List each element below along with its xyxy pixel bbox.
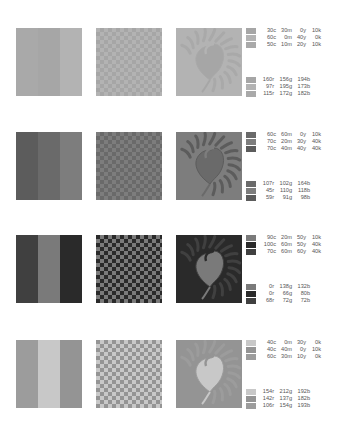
color-chip: [246, 195, 256, 201]
sun-heart-illustration: [176, 340, 242, 408]
red-value: 106r: [258, 402, 274, 409]
cyan-value: 100c: [262, 241, 276, 248]
color-chip: [246, 35, 256, 41]
cyan-value: 40c: [262, 346, 276, 353]
blue-value: 98b: [294, 194, 310, 201]
cyan-value: 70c: [262, 248, 276, 255]
green-value: 154g: [276, 402, 292, 409]
swatch-set-1: 30c30m0y10k60c0m40y0k50c10m20y10k160r156…: [0, 28, 352, 98]
magenta-value: 30m: [278, 27, 292, 34]
color-chip: [246, 242, 256, 248]
cmyk-row: 60c30m10y0k: [246, 354, 352, 360]
color-legend: 40c0m30y0k40c40m0y10k60c30m10y0k154r212g…: [246, 340, 352, 410]
green-value: 138g: [276, 283, 292, 290]
blue-value: 182b: [294, 90, 310, 97]
cyan-value: 60c: [262, 34, 276, 41]
color-chip: [246, 284, 256, 290]
rgb-row: 106r154g193b: [246, 403, 352, 409]
magenta-value: 20m: [278, 138, 292, 145]
color-chip: [246, 42, 256, 48]
yellow-value: 60y: [294, 248, 306, 255]
yellow-value: 0y: [294, 27, 306, 34]
black-value: 10k: [308, 346, 321, 353]
red-value: 107r: [258, 180, 274, 187]
yellow-value: 10y: [294, 353, 306, 360]
color-chip: [246, 291, 256, 297]
magenta-value: 60m: [278, 248, 292, 255]
color-legend: 90c20m50y10k100c60m50y40k70c60m60y40k0r1…: [246, 235, 352, 305]
magenta-value: 10m: [278, 41, 292, 48]
cyan-value: 60c: [262, 131, 276, 138]
cmyk-row: 50c10m20y10k: [246, 42, 352, 48]
yellow-value: 0y: [294, 346, 306, 353]
cyan-value: 70c: [262, 138, 276, 145]
color-chip: [246, 146, 256, 152]
blue-value: 193b: [294, 402, 310, 409]
blue-value: 182b: [294, 395, 310, 402]
color-chip: [246, 389, 256, 395]
red-value: 68r: [258, 297, 274, 304]
cyan-value: 60c: [262, 353, 276, 360]
yellow-value: 50y: [294, 234, 306, 241]
green-value: 110g: [276, 187, 292, 194]
yellow-value: 40y: [294, 34, 306, 41]
blue-value: 72b: [294, 297, 310, 304]
checker-sample: [96, 340, 162, 408]
color-chip: [246, 298, 256, 304]
cyan-value: 50c: [262, 41, 276, 48]
checker-sample: [96, 28, 162, 96]
color-chip: [246, 181, 256, 187]
green-value: 172g: [276, 90, 292, 97]
swatch-set-4: 40c0m30y0k40c40m0y10k60c30m10y0k154r212g…: [0, 340, 352, 410]
blue-value: 118b: [294, 187, 310, 194]
rgb-row: 68r72g72b: [246, 298, 352, 304]
cyan-value: 70c: [262, 145, 276, 152]
magenta-value: 0m: [278, 339, 292, 346]
green-value: 156g: [276, 76, 292, 83]
color-chip: [246, 354, 256, 360]
magenta-value: 40m: [278, 346, 292, 353]
black-value: 10k: [308, 131, 321, 138]
yellow-value: 50y: [294, 241, 306, 248]
black-value: 40k: [308, 145, 321, 152]
cmyk-row: 70c60m60y40k: [246, 249, 352, 255]
stripe-sample: [16, 235, 82, 303]
color-chip: [246, 249, 256, 255]
yellow-value: 40y: [294, 145, 306, 152]
swatch-set-3: 90c20m50y10k100c60m50y40k70c60m60y40k0r1…: [0, 235, 352, 305]
blue-value: 192b: [294, 388, 310, 395]
red-value: 154r: [258, 388, 274, 395]
color-chip: [246, 347, 256, 353]
magenta-value: 60m: [278, 241, 292, 248]
color-legend: 30c30m0y10k60c0m40y0k50c10m20y10k160r156…: [246, 28, 352, 98]
green-value: 72g: [276, 297, 292, 304]
color-chip: [246, 84, 256, 90]
checker-sample: [96, 132, 162, 200]
red-value: 115r: [258, 90, 274, 97]
black-value: 10k: [308, 41, 321, 48]
color-legend: 60c60m0y10k70c20m30y40k70c40m40y40k107r1…: [246, 132, 352, 202]
color-chip: [246, 403, 256, 409]
green-value: 195g: [276, 83, 292, 90]
red-value: 160r: [258, 76, 274, 83]
blue-value: 80b: [294, 290, 310, 297]
black-value: 40k: [308, 138, 321, 145]
red-value: 142r: [258, 395, 274, 402]
cyan-value: 90c: [262, 234, 276, 241]
magenta-value: 60m: [278, 131, 292, 138]
yellow-value: 30y: [294, 339, 306, 346]
yellow-value: 30y: [294, 138, 306, 145]
color-chip: [246, 235, 256, 241]
yellow-value: 20y: [294, 41, 306, 48]
color-chip: [246, 28, 256, 34]
stripe-sample: [16, 28, 82, 96]
checker-sample: [96, 235, 162, 303]
red-value: 0r: [258, 290, 274, 297]
cyan-value: 40c: [262, 339, 276, 346]
green-value: 91g: [276, 194, 292, 201]
color-chip: [246, 340, 256, 346]
red-value: 0r: [258, 283, 274, 290]
blue-value: 194b: [294, 76, 310, 83]
color-chip: [246, 396, 256, 402]
blue-value: 164b: [294, 180, 310, 187]
